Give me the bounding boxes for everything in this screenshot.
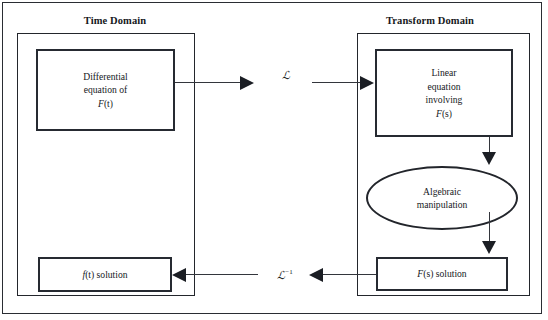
arrow-fs-to-inverse-line bbox=[323, 274, 376, 275]
node-algebraic-manipulation: Algebraic manipulation bbox=[366, 166, 518, 230]
arrow-diff-to-laplace-line bbox=[175, 82, 241, 83]
fs-arg: (s) bbox=[423, 268, 433, 279]
arrow-inverse-to-ft-head bbox=[172, 268, 186, 282]
node-algebraic-manipulation-text: Algebraic manipulation bbox=[417, 185, 468, 212]
arrow-linear-to-ellipse-head bbox=[482, 152, 496, 165]
node-ft-solution: f(t) solution bbox=[38, 257, 172, 292]
linear-line-3: involving bbox=[426, 94, 463, 105]
node-linear-equation: Linear equation involving F(s) bbox=[375, 49, 513, 137]
arrow-fs-to-inverse-head bbox=[309, 268, 323, 282]
diff-line-1: Differential bbox=[83, 71, 128, 82]
linear-line-4-arg: (s) bbox=[442, 108, 452, 119]
ft-arg: (t) bbox=[85, 269, 94, 280]
diff-line-2: equation of bbox=[84, 84, 127, 95]
arrow-linear-to-ellipse-line bbox=[489, 137, 490, 153]
node-differential-equation-text: Differential equation of F(t) bbox=[83, 70, 128, 111]
node-linear-equation-text: Linear equation involving F(s) bbox=[426, 66, 463, 120]
fs-label: solution bbox=[433, 268, 466, 279]
inverse-laplace-operator-symbol: ℒ−1 bbox=[262, 268, 308, 282]
arrow-inverse-to-ft-line bbox=[186, 274, 258, 275]
linear-line-2: equation bbox=[427, 81, 460, 92]
transform-domain-title: Transform Domain bbox=[355, 15, 505, 27]
linear-line-1: Linear bbox=[431, 67, 456, 78]
ft-label: solution bbox=[94, 269, 127, 280]
arrow-laplace-to-linear-line bbox=[312, 82, 361, 83]
time-domain-title: Time Domain bbox=[40, 15, 190, 27]
node-fs-solution-text: F(s) solution bbox=[417, 267, 466, 281]
node-differential-equation: Differential equation of F(t) bbox=[36, 49, 175, 131]
alg-line-1: Algebraic bbox=[423, 186, 461, 197]
alg-line-2: manipulation bbox=[417, 199, 468, 210]
node-ft-solution-text: f(t) solution bbox=[82, 268, 127, 282]
laplace-transform-flow-diagram: Time Domain Transform Domain Differentia… bbox=[0, 0, 548, 320]
inverse-laplace-exponent: −1 bbox=[285, 268, 292, 276]
node-fs-solution: F(s) solution bbox=[376, 257, 508, 291]
laplace-operator-symbol: ℒ bbox=[268, 69, 304, 82]
arrow-ellipse-to-fs-head bbox=[482, 241, 496, 254]
diff-line-3-arg: (t) bbox=[104, 98, 113, 109]
arrow-ellipse-to-fs-line bbox=[489, 212, 490, 242]
laplace-glyph: ℒ bbox=[282, 69, 290, 81]
arrow-laplace-to-linear-head bbox=[360, 76, 374, 90]
arrow-diff-to-laplace-head bbox=[240, 76, 254, 90]
